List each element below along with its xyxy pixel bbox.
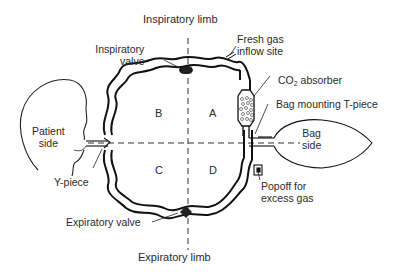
label-expiratory-limb: Expiratory limb (138, 251, 211, 263)
quadrant-c: C (155, 164, 163, 176)
label-inspiratory-valve-line1: Inspiratory (95, 43, 145, 55)
label-popoff: Popoff for excess gas (261, 180, 314, 204)
label-fresh-gas-line2: inflow site (237, 45, 284, 57)
breathing-circuit-tubing (104, 57, 252, 218)
label-bag-side-line1: Bag (302, 127, 321, 139)
label-inspiratory-limb: Inspiratory limb (143, 13, 218, 25)
label-patient-side-line2: side (32, 137, 65, 149)
label-y-piece: Y-piece (54, 176, 89, 188)
label-co2-prefix: CO (278, 74, 294, 86)
label-bag-mounting-t-piece: Bag mounting T-piece (276, 98, 378, 110)
label-bag-side-line2: side (302, 139, 321, 151)
label-fresh-gas-line1: Fresh gas (237, 33, 284, 45)
label-patient-side: Patient side (32, 125, 65, 149)
label-popoff-line2: excess gas (261, 192, 314, 204)
label-fresh-gas-inflow: Fresh gas inflow site (237, 33, 284, 57)
label-inspiratory-valve-line2: valve (95, 55, 145, 67)
quadrant-a: A (209, 107, 216, 119)
label-bag-side: Bag side (302, 127, 321, 151)
label-expiratory-valve: Expiratory valve (66, 216, 141, 228)
label-patient-side-line1: Patient (32, 125, 65, 137)
label-co2-suffix: absorber (298, 74, 342, 86)
label-inspiratory-valve: Inspiratory valve (95, 43, 145, 67)
inspiratory-valve (179, 66, 193, 74)
reservoir-bag (274, 120, 372, 168)
label-co2-absorber: CO2 absorber (278, 74, 342, 90)
quadrant-d: D (209, 164, 217, 176)
label-popoff-line1: Popoff for (261, 180, 314, 192)
quadrant-b: B (155, 107, 162, 119)
